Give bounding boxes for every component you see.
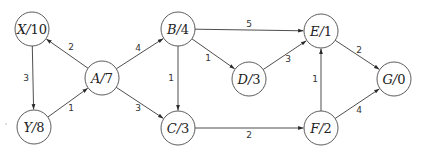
node-heuristic: 4 xyxy=(181,22,189,37)
edge-weight-label: 2 xyxy=(246,130,252,140)
edge-weight-label: 2 xyxy=(68,42,74,52)
node-heuristic: 3 xyxy=(181,121,189,136)
node-c: C/3 xyxy=(161,111,195,145)
node-x: X/10 xyxy=(15,12,49,46)
node-y: Y/8 xyxy=(17,110,51,144)
node-b: B/4 xyxy=(161,12,195,46)
node-label: B/4 xyxy=(166,22,189,37)
edge-weight-label: 2 xyxy=(356,45,362,55)
node-d: D/3 xyxy=(232,62,266,96)
edge-weight-label: 4 xyxy=(356,105,362,115)
speck-dot xyxy=(5,123,7,125)
edge-weight-label: 3 xyxy=(285,54,291,64)
node-heuristic: 7 xyxy=(105,71,113,86)
node-label: C/3 xyxy=(167,121,190,136)
edge-b-to-e xyxy=(195,29,304,31)
node-g: G/0 xyxy=(377,62,411,96)
node-heuristic: 3 xyxy=(252,72,260,87)
edge-weight-label: 1 xyxy=(205,53,211,63)
node-heuristic: 10 xyxy=(31,22,48,37)
edge-weight-label: 3 xyxy=(23,73,29,83)
node-heuristic: 1 xyxy=(324,24,332,39)
node-label: E/1 xyxy=(309,24,332,39)
edge-weight-label: 5 xyxy=(246,19,252,29)
nodes-layer: X/10Y/8A/7B/4C/3D/3E/1F/2G/0 xyxy=(15,12,411,145)
node-label: A/7 xyxy=(90,71,113,86)
node-heuristic: 8 xyxy=(36,120,44,135)
node-name: D/ xyxy=(236,72,253,87)
node-label: Y/8 xyxy=(23,120,44,135)
edge-weight-label: 1 xyxy=(68,103,74,113)
node-heuristic: 0 xyxy=(397,72,405,87)
edge-x-to-y xyxy=(32,46,33,110)
edge-b-to-d xyxy=(192,39,235,69)
graph-diagram: 2314311532124 X/10Y/8A/7B/4C/3D/3E/1F/2G… xyxy=(0,0,429,156)
node-label: X/10 xyxy=(16,22,47,37)
node-label: D/3 xyxy=(236,72,260,87)
node-e: E/1 xyxy=(304,14,338,48)
node-label: G/0 xyxy=(382,72,405,87)
node-f: F/2 xyxy=(304,111,338,145)
node-a: A/7 xyxy=(85,61,119,95)
edge-weight-label: 3 xyxy=(135,103,141,113)
edge-weight-label: 1 xyxy=(168,73,174,83)
edge-weight-label: 1 xyxy=(312,74,318,84)
node-heuristic: 2 xyxy=(324,121,332,136)
edge-weight-label: 4 xyxy=(135,43,141,53)
node-label: F/2 xyxy=(309,121,332,136)
